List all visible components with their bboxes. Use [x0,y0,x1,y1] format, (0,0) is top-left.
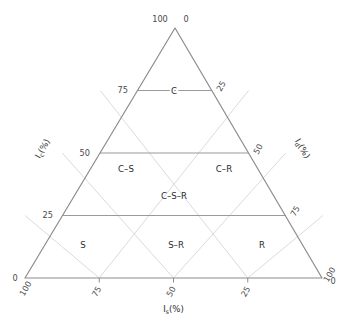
bottom-left-inner-value: 100 [17,279,33,298]
bottom-tick-75: 75 [89,284,103,298]
apex-left-value: 100 [152,14,168,24]
apex-right-value: 0 [183,14,188,24]
axis-title-bottom: Is(%) [163,304,184,315]
region-label-cr: C–R [216,164,232,174]
axis-right-units: (%) [296,142,312,160]
axis-left-units: (%) [36,137,52,155]
right-tick-25: 25 [214,79,228,93]
left-tick-75: 75 [118,85,128,95]
bottom-tick-50: 50 [164,284,178,298]
bottom-left-outer-value: 0 [12,273,17,283]
region-label-csr: C–S–R [161,191,187,201]
axis-title-left: Ic(%) [33,137,53,161]
tick-marks [99,278,248,283]
bottom-right-outer-value: 0 [330,276,335,286]
ternary-diagram: 100 0 0 100 100 0 75 50 25 25 50 75 75 5… [0,0,351,325]
svg-text:Ic(%): Ic(%) [33,137,53,161]
region-label-r: R [259,240,265,250]
region-label-sr: S–R [168,240,184,250]
region-label-cs: C–S [118,164,134,174]
axis-title-right: Id(%) [292,137,312,161]
right-tick-75: 75 [288,204,302,218]
bottom-tick-25: 25 [238,284,252,298]
ternary-plot-svg: 100 0 0 100 100 0 75 50 25 25 50 75 75 5… [0,0,351,325]
gridline-is-75 [25,216,99,279]
right-tick-50: 50 [251,142,265,156]
region-label-s: S [80,240,85,250]
left-tick-50: 50 [80,148,90,158]
axis-bottom-units: (%) [169,304,184,314]
svg-text:Id(%): Id(%) [292,137,312,161]
left-tick-25: 25 [43,210,53,220]
region-label-c: C [171,86,177,96]
